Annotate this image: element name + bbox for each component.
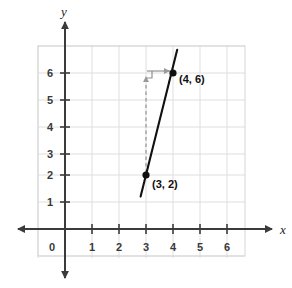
data-point-3-2	[142, 171, 149, 178]
graph-canvas: 1 2 3 4 5 6 1 2 3 4 5 6 0 y x (3, 2)	[0, 0, 292, 288]
x-tick-label-3: 3	[143, 241, 149, 253]
y-tick-label-3: 3	[47, 148, 53, 160]
point-label-upper: (4, 6)	[179, 73, 205, 85]
y-tick-label-2: 2	[47, 169, 53, 181]
y-axis-label: y	[59, 4, 67, 19]
point-label-lower: (3, 2)	[152, 178, 178, 190]
y-tick-label-6: 6	[47, 67, 53, 79]
y-tick-label-5: 5	[47, 94, 53, 106]
data-point-4-6	[169, 69, 176, 76]
x-tick-label-4: 4	[170, 241, 177, 253]
x-tick-label-5: 5	[197, 241, 203, 253]
x-tick-label-2: 2	[116, 241, 122, 253]
x-tick-label-6: 6	[224, 241, 230, 253]
x-axis-label: x	[279, 222, 286, 237]
y-tick-label-1: 1	[47, 196, 53, 208]
x-tick-label-1: 1	[89, 241, 95, 253]
y-tick-label-4: 4	[47, 121, 54, 133]
origin-label: 0	[49, 241, 55, 253]
coordinate-plane-figure: 1 2 3 4 5 6 1 2 3 4 5 6 0 y x (3, 2)	[0, 0, 292, 288]
